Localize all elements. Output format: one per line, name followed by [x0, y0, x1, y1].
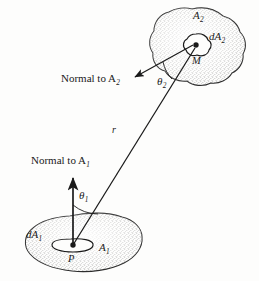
label-area-lower: A1	[99, 242, 109, 253]
point-marker-P	[70, 242, 75, 247]
label-area-lower-sub: 1	[106, 248, 110, 256]
label-point-P: P	[68, 254, 74, 265]
label-normal-to-lower-text: Normal to A	[31, 154, 86, 166]
label-diff-area-lower-sub: 1	[39, 235, 43, 243]
label-diff-area-upper-sub: 2	[222, 37, 226, 45]
label-area-upper: A2	[193, 10, 203, 21]
label-distance-r: r	[112, 125, 116, 135]
label-normal-to-upper-text: Normal to A	[61, 72, 116, 84]
label-theta-upper: θ2	[157, 76, 166, 87]
label-theta-lower-text: θ	[79, 189, 84, 201]
point-marker-M	[193, 42, 198, 47]
label-normal-to-upper: Normal to A2	[61, 73, 120, 84]
label-diff-area-upper-text: dA	[209, 30, 221, 42]
label-diff-area-lower: dA1	[26, 229, 42, 240]
label-diff-area-lower-text: dA	[26, 228, 38, 240]
label-theta-lower-sub: 1	[85, 196, 89, 204]
label-theta-upper-text: θ	[157, 75, 162, 87]
label-theta-upper-sub: 2	[163, 82, 167, 90]
label-area-lower-text: A	[99, 241, 106, 253]
label-normal-to-lower: Normal to A1	[31, 155, 90, 166]
view-factor-diagram: A2 dA2 M Normal to A2 θ2 r Normal to A1 …	[0, 0, 259, 281]
label-normal-to-lower-sub: 1	[86, 161, 90, 169]
label-normal-to-upper-sub: 2	[116, 79, 120, 87]
label-diff-area-upper: dA2	[209, 31, 225, 42]
label-area-upper-sub: 2	[200, 16, 204, 24]
label-area-upper-text: A	[193, 9, 200, 21]
label-point-M: M	[192, 56, 201, 67]
label-theta-lower: θ1	[79, 190, 88, 201]
